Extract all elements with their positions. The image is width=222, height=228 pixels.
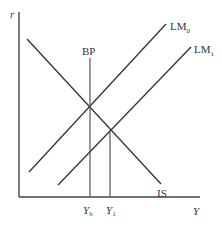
lm0-label-main: LM [170, 20, 187, 32]
lm0-label-sub: 0 [187, 27, 191, 35]
y1-tick-label: Y1 [106, 204, 116, 218]
yb-tick-label: Yb [83, 204, 93, 218]
y1-tick-sub: 1 [112, 210, 116, 218]
y-axis-label: r [10, 8, 15, 20]
is-lm-bp-diagram: r Y BP IS LM0 LM1 Yb Y1 [0, 0, 222, 228]
lm1-label: LM1 [194, 43, 215, 58]
is-curve [27, 39, 161, 184]
lm0-curve [29, 24, 166, 172]
lm1-curve [58, 47, 191, 185]
yb-tick-sub: b [89, 210, 93, 218]
lm1-label-main: LM [194, 43, 211, 55]
x-axis-label: Y [193, 205, 201, 217]
lm0-label: LM0 [170, 20, 191, 35]
is-label: IS [157, 187, 167, 199]
lm1-label-sub: 1 [211, 50, 215, 58]
bp-label: BP [82, 45, 95, 57]
